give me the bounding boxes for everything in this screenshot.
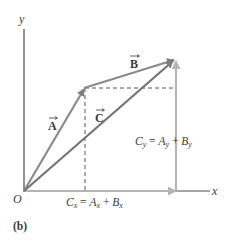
vector-c-arrow bbox=[24, 61, 173, 191]
vector-a-label: A bbox=[48, 117, 58, 134]
svg-text:A: A bbox=[48, 119, 57, 133]
cy-equation: Cy = Ay + By bbox=[135, 135, 192, 149]
cx-equation: Cx = Ax + Bx bbox=[66, 196, 123, 210]
svg-text:C: C bbox=[95, 111, 104, 125]
vector-c-label: C bbox=[95, 109, 105, 126]
y-axis-label: y bbox=[18, 12, 25, 26]
vector-a-arrow bbox=[24, 89, 84, 191]
vector-b-arrow bbox=[84, 60, 174, 88]
origin-label: O bbox=[13, 192, 22, 206]
panel-label: (b) bbox=[13, 220, 27, 233]
vector-b-label: B bbox=[130, 55, 140, 72]
vector-addition-diagram: y x O A B C Cy = Ay + By Cx = Ax + Bx (b… bbox=[0, 0, 231, 245]
svg-text:B: B bbox=[130, 57, 138, 71]
x-axis-label: x bbox=[211, 184, 218, 198]
